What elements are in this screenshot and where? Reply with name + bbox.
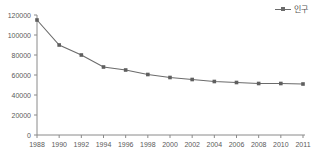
data-point-marker [235,81,239,85]
y-tick-label: 100000 [8,32,31,39]
y-tick-label: 0 [27,132,31,139]
x-tick-label: 2006 [229,141,245,148]
population-line-chart: 인구 020000400006000080000100000120000 198… [0,0,312,155]
y-tick-label: 60000 [12,72,32,79]
data-point-marker [279,82,283,86]
x-tick-label: 1996 [118,141,134,148]
x-tick-label: 2008 [251,141,267,148]
data-point-marker [35,18,39,22]
x-tick-label: 1998 [140,141,156,148]
x-tick-label: 1994 [96,141,112,148]
x-axis-ticks: 1988199019921994199619982000200220042006… [29,135,310,148]
y-tick-label: 80000 [12,52,32,59]
x-tick-label: 2004 [207,141,223,148]
x-tick-label: 1990 [51,141,67,148]
x-tick-label: 2010 [273,141,289,148]
data-point-marker [102,65,106,69]
y-tick-label: 20000 [12,112,32,119]
data-point-marker [213,80,217,84]
x-tick-label: 2011 [295,141,310,148]
data-point-marker [257,82,261,86]
data-point-marker [146,73,150,77]
data-point-marker [80,53,84,57]
y-axis-ticks: 020000400006000080000100000120000 [8,12,37,139]
data-point-marker [57,43,61,47]
plot-area: 020000400006000080000100000120000 198819… [0,0,312,155]
series-line-population [37,20,303,84]
data-point-marker [168,76,172,80]
data-point-marker [301,82,305,86]
y-tick-label: 40000 [12,92,32,99]
x-tick-label: 2002 [184,141,200,148]
y-tick-label: 120000 [8,12,31,19]
data-point-marker [124,68,128,72]
x-tick-label: 1992 [74,141,90,148]
x-tick-label: 1988 [29,141,45,148]
data-point-marker [190,78,194,82]
x-tick-label: 2000 [162,141,178,148]
